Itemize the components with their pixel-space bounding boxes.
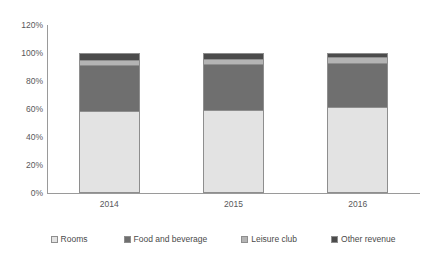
chart-legend: RoomsFood and beverageLeisure clubOther …	[0, 231, 446, 247]
bar-segment-other-revenue[interactable]	[80, 54, 139, 61]
stacked-bar[interactable]	[79, 53, 140, 193]
x-axis-line	[47, 193, 420, 194]
y-axis-tick-labels: 120%100%80%60%40%20%0%	[0, 0, 43, 261]
y-axis-tick-40: 40%	[0, 133, 43, 142]
legend-swatch-icon	[124, 236, 131, 243]
legend-swatch-icon	[331, 236, 338, 243]
y-axis-tick-80: 80%	[0, 77, 43, 86]
legend-item-food-and-beverage[interactable]: Food and beverage	[124, 234, 208, 244]
bar-segment-food-and-beverage[interactable]	[80, 66, 139, 112]
legend-item-leisure-club[interactable]: Leisure club	[241, 234, 297, 244]
bar-segment-food-and-beverage[interactable]	[328, 64, 387, 108]
legend-swatch-icon	[51, 236, 58, 243]
legend-label: Food and beverage	[134, 234, 208, 244]
stacked-bar-chart: 120%100%80%60%40%20%0% 201420152016 Room…	[0, 0, 446, 261]
bar-group-2014	[79, 25, 140, 193]
y-axis-tick-20: 20%	[0, 161, 43, 170]
bar-segment-rooms[interactable]	[80, 112, 139, 192]
y-axis-tick-60: 60%	[0, 105, 43, 114]
bar-segment-food-and-beverage[interactable]	[204, 65, 263, 111]
bars-container	[47, 25, 420, 193]
bar-segment-rooms[interactable]	[204, 111, 263, 192]
legend-label: Leisure club	[251, 234, 297, 244]
stacked-bar[interactable]	[203, 53, 264, 193]
y-axis-tick-100: 100%	[0, 49, 43, 58]
y-axis-tick-120: 120%	[0, 21, 43, 30]
y-axis-tick-0: 0%	[0, 189, 43, 198]
stacked-bar[interactable]	[327, 53, 388, 193]
legend-label: Rooms	[61, 234, 88, 244]
bar-segment-rooms[interactable]	[328, 108, 387, 192]
bar-group-2015	[203, 25, 264, 193]
x-axis-label-2015: 2015	[171, 198, 295, 210]
x-axis-category-labels: 201420152016	[47, 198, 420, 214]
x-axis-label-2014: 2014	[47, 198, 171, 210]
bar-group-2016	[327, 25, 388, 193]
legend-item-other-revenue[interactable]: Other revenue	[331, 234, 395, 244]
legend-swatch-icon	[241, 236, 248, 243]
x-axis-label-2016: 2016	[296, 198, 420, 210]
legend-item-rooms[interactable]: Rooms	[51, 234, 88, 244]
legend-label: Other revenue	[341, 234, 395, 244]
